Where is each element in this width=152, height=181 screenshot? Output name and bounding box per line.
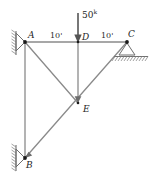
support-pin-a <box>12 30 26 55</box>
load-arrow-50k <box>74 13 81 43</box>
joint-label-c: C <box>128 30 135 39</box>
joint-c <box>125 40 129 44</box>
load-magnitude-label: 50k <box>82 9 97 20</box>
truss-drawing-canvas <box>0 0 152 181</box>
truss-diagram: 50k A D C E B 10' 10' <box>0 0 152 181</box>
joint-d <box>77 41 80 44</box>
dimension-d-c: 10' <box>101 32 113 40</box>
joint-label-a: A <box>28 31 35 40</box>
joint-a <box>23 40 27 44</box>
joint-label-b: B <box>26 161 33 170</box>
member-a-e <box>25 42 78 103</box>
load-unit-superscript: k <box>93 8 97 15</box>
joint-label-e: E <box>83 105 90 114</box>
truss-members <box>25 42 127 158</box>
dimension-a-d: 10' <box>50 32 62 40</box>
joint-e <box>77 102 80 105</box>
support-pin-b <box>12 144 26 171</box>
load-value: 50 <box>82 10 93 20</box>
joint-label-d: D <box>82 33 89 42</box>
